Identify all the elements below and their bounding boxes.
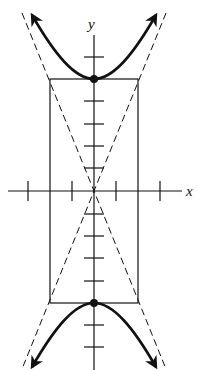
y-axis-label: y [86, 16, 95, 32]
vertex-lower [90, 299, 98, 307]
hyperbola-diagram: y x [0, 0, 197, 370]
vertex-upper [90, 75, 98, 83]
x-axis-label: x [185, 183, 193, 199]
